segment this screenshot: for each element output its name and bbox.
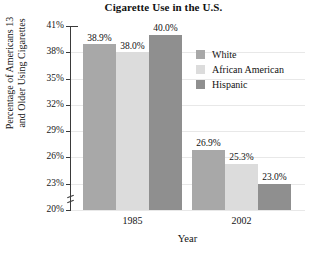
bar: 23.0% — [258, 184, 291, 210]
chart-legend: WhiteAfrican AmericanHispanic — [196, 47, 301, 92]
y-axis-tick-label: 29% — [47, 126, 64, 136]
bar: 25.3% — [225, 164, 258, 210]
x-axis-group-label: 2002 — [232, 215, 252, 226]
y-axis-tick-label: 35% — [47, 74, 64, 84]
legend-item: Hispanic — [196, 77, 301, 92]
legend-item: African American — [196, 62, 301, 77]
x-axis-title: Year — [70, 233, 305, 244]
y-axis-title-line2: and Older Using Cigarettes — [16, 18, 29, 127]
y-axis-tick-mark — [66, 184, 70, 185]
chart-figure: Cigarette Use in the U.S. Percentage of … — [0, 0, 327, 262]
plot-area: 41%38%35%32%29%26%23%20% 38.9%38.0%40.0%… — [70, 26, 305, 211]
bar: 38.9% — [83, 44, 116, 210]
y-axis-tick-mark — [66, 210, 70, 211]
y-axis-tick-mark — [66, 157, 70, 158]
y-axis-tick-mark — [66, 26, 70, 27]
bar-value-label: 23.0% — [262, 173, 287, 183]
y-axis-tick-mark — [66, 131, 70, 132]
gridline — [71, 210, 305, 211]
bar-value-label: 25.3% — [229, 153, 254, 163]
y-axis-tick-label: 20% — [47, 205, 64, 215]
legend-label: White — [212, 50, 236, 60]
legend-item: White — [196, 47, 301, 62]
bar-value-label: 38.9% — [87, 34, 112, 44]
bar-value-label: 26.9% — [196, 139, 221, 149]
legend-swatch — [196, 50, 205, 59]
y-axis-title-line1: Percentage of Americans 13 — [4, 17, 17, 129]
bar: 26.9% — [192, 150, 225, 210]
y-axis-tick-mark — [66, 52, 70, 53]
bar-value-label: 40.0% — [153, 24, 178, 34]
legend-label: African American — [212, 65, 284, 75]
bar-value-label: 38.0% — [120, 42, 145, 52]
y-axis-top-cap — [70, 26, 78, 27]
y-axis-tick-label: 23% — [47, 179, 64, 189]
y-axis-tick-label: 32% — [47, 100, 64, 110]
y-axis-tick-mark — [66, 105, 70, 106]
y-axis-tick-label: 26% — [47, 153, 64, 163]
legend-swatch — [196, 65, 205, 74]
legend-swatch — [196, 80, 205, 89]
y-axis-title: Percentage of Americans 13 and Older Usi… — [0, 0, 32, 153]
bar: 38.0% — [116, 52, 149, 210]
bar: 40.0% — [149, 35, 182, 210]
y-axis-tick-label: 41% — [47, 21, 64, 31]
y-axis-tick-label: 38% — [47, 48, 64, 58]
y-axis-break-icon — [67, 194, 74, 205]
chart-title: Cigarette Use in the U.S. — [0, 1, 327, 13]
y-axis-tick-mark — [66, 79, 70, 80]
legend-label: Hispanic — [212, 80, 248, 90]
x-axis-group-label: 1985 — [123, 215, 143, 226]
